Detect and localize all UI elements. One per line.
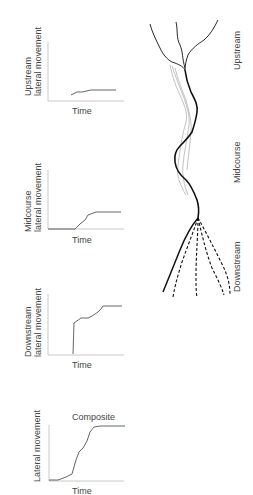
upstream-chart: Upstream lateral movement Time — [23, 26, 124, 116]
midcourse-chart: Midcourse lateral movement Time — [23, 162, 124, 245]
upstream-axes — [48, 42, 124, 101]
downstream-ylabel-2: lateral movement — [33, 287, 43, 357]
river-diagram: Upstream Midcourse Downstream — [150, 20, 242, 297]
downstream-ylabel-1: Downstream — [23, 306, 33, 357]
upstream-xlabel: Time — [72, 106, 92, 116]
composite-xlabel: Time — [72, 486, 92, 495]
downstream-axes — [48, 294, 124, 355]
composite-axes — [49, 425, 124, 481]
composite-chart: Lateral movement Composite Time — [32, 409, 125, 495]
downstream-curve — [73, 306, 122, 354]
upstream-curve — [71, 90, 116, 95]
figure: Upstream lateral movement Time Midcourse… — [0, 0, 253, 495]
river-label-downstream: Downstream — [232, 241, 242, 292]
downstream-chart: Downstream lateral movement Time — [23, 287, 124, 370]
midcourse-axes — [48, 170, 124, 229]
midcourse-ylabel-1: Midcourse — [23, 190, 33, 232]
upstream-ylabel-1: Upstream — [23, 57, 33, 96]
upstream-ylabel-2: lateral movement — [33, 26, 43, 96]
downstream-xlabel: Time — [72, 360, 92, 370]
river-label-upstream: Upstream — [232, 31, 242, 70]
composite-ylabel: Lateral movement — [32, 409, 42, 482]
river-label-midcourse: Midcourse — [232, 141, 242, 183]
midcourse-xlabel: Time — [72, 235, 92, 245]
river-distributaries — [163, 218, 230, 297]
midcourse-ylabel-2: lateral movement — [33, 162, 43, 232]
river-tributaries — [150, 20, 218, 70]
composite-title: Composite — [72, 412, 115, 422]
midcourse-curve — [48, 212, 121, 229]
composite-curve — [49, 426, 125, 480]
